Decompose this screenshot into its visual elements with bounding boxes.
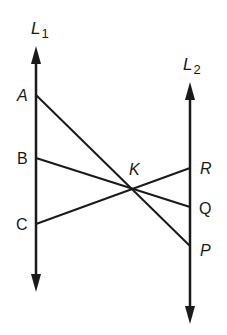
arrow-up-icon [31, 46, 41, 64]
arrow-up-icon [185, 82, 195, 100]
line-l1 [31, 46, 41, 292]
arrow-down-icon [31, 274, 41, 292]
label-point-p: P [200, 242, 211, 259]
label-point-a: A [16, 87, 28, 104]
label-point-k: K [129, 161, 141, 178]
label-point-c: C [16, 216, 28, 233]
label-point-r: R [200, 160, 212, 177]
arrow-down-icon [185, 306, 195, 324]
label-l2: L2 [183, 55, 201, 77]
label-l1: L1 [31, 19, 49, 41]
line-l2 [185, 82, 195, 324]
label-point-q: Q [199, 200, 211, 217]
segment-cr [36, 168, 190, 224]
segment-ap [36, 95, 190, 246]
label-point-b: B [17, 150, 28, 167]
segment-bq [36, 158, 190, 207]
geometry-figure: L1 L2 A B C K R Q P [0, 0, 227, 335]
